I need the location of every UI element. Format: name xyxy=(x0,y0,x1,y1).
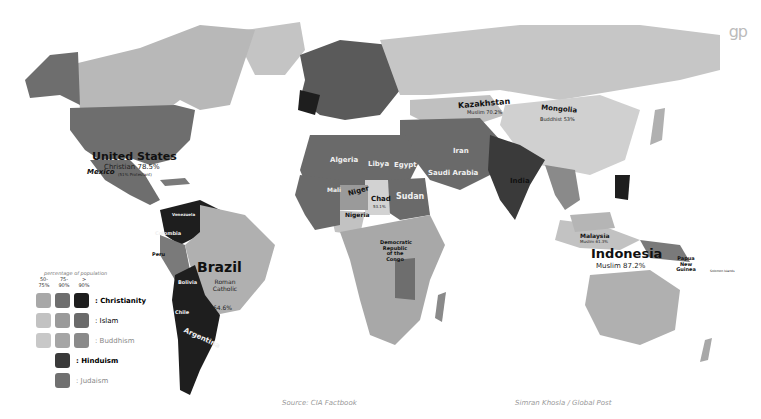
author-credit: Simran Khosla / Global Post xyxy=(515,399,612,407)
legend-row-buddhism: : Buddhism xyxy=(36,333,156,348)
label-india: India xyxy=(510,178,530,186)
legend-row-islam: : Islam xyxy=(36,313,156,328)
label-united-states: United States xyxy=(92,151,177,163)
globalpost-logo: gp xyxy=(729,22,747,41)
legend-row-christianity: : Christianity xyxy=(36,293,156,308)
label-papua-new-guinea: Papua New Guinea xyxy=(673,256,699,273)
source-credit: Source: CIA Factbook xyxy=(282,399,357,407)
region-canada xyxy=(78,25,255,115)
label-brazil-religion: Roman Catholic xyxy=(210,279,240,292)
label-colombia: Colombia xyxy=(155,231,181,237)
legend-row-hinduism: : Hinduism xyxy=(36,353,156,368)
label-mexico: Mexico xyxy=(87,169,115,177)
label-egypt: Egypt xyxy=(394,162,417,170)
label-malaysia-religion: Muslim 61.3% xyxy=(580,240,608,244)
label-saudi-arabia: Saudi Arabia xyxy=(428,170,478,178)
label-nigeria: Nigeria xyxy=(345,212,370,219)
region-alaska xyxy=(25,52,80,105)
legend-columns: 50-75% 75-90% > 90% xyxy=(36,276,156,288)
label-kazakhstan-religion: Muslim 70.2% xyxy=(467,110,502,116)
region-russia xyxy=(380,25,720,100)
label-chad: Chad xyxy=(371,196,391,204)
label-brazil: Brazil xyxy=(197,260,242,275)
label-mongolia-religion: Buddhist 53% xyxy=(540,117,575,123)
label-drc: Democratic Republic of the Congo xyxy=(380,240,410,262)
label-solomon-islands: Solomon Islands xyxy=(710,270,735,273)
label-us-note: (51% Protestant) xyxy=(118,173,152,177)
label-sudan: Sudan xyxy=(396,193,424,202)
label-indonesia: Indonesia xyxy=(591,247,662,261)
label-libya: Libya xyxy=(368,161,389,169)
label-venezuela: Venezuela xyxy=(172,213,195,217)
label-bolivia: Bolivia xyxy=(178,280,197,286)
legend: percentage of population 50-75% 75-90% >… xyxy=(36,270,156,388)
label-mali: Mali xyxy=(327,187,341,194)
label-chad-pct: 53.1% xyxy=(373,205,386,209)
label-peru: Peru xyxy=(152,252,165,258)
label-iran: Iran xyxy=(453,148,469,156)
region-australia xyxy=(585,270,680,345)
label-chile: Chile xyxy=(175,310,189,316)
label-brazil-pct: 64.6% xyxy=(213,305,232,312)
region-central-africa xyxy=(340,215,445,345)
label-indonesia-religion: Muslim 87.2% xyxy=(596,263,645,271)
label-algeria: Algeria xyxy=(330,157,358,165)
legend-row-judaism: : Judaism xyxy=(36,373,156,388)
